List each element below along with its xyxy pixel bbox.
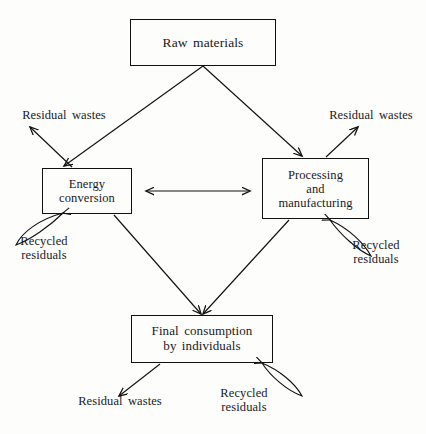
label-residual-wastes-right: Residual wastes (316, 108, 426, 122)
node-final-consumption-label: Final consumption by individuals (152, 324, 253, 353)
label-recycled-residuals-bottom: Recycled residuals (204, 386, 284, 415)
label-residual-wastes-left: Residual wastes (8, 108, 120, 122)
edge-energy-to-residual-wastes (30, 127, 72, 167)
edge-processing-to-final (203, 220, 289, 314)
materials-flow-diagram: Raw materials Energy conversion Processi… (0, 0, 426, 434)
edge-processing-to-residual-wastes (326, 127, 358, 157)
edge-energy-to-final (114, 215, 201, 314)
label-recycled-residuals-right: Recycled residuals (336, 238, 416, 267)
node-raw-materials: Raw materials (130, 19, 276, 66)
node-energy-conversion: Energy conversion (42, 168, 132, 214)
node-processing-and-manufacturing-label: Processing and manufacturing (278, 168, 352, 210)
node-raw-materials-label: Raw materials (163, 35, 244, 50)
node-processing-and-manufacturing: Processing and manufacturing (262, 158, 369, 219)
node-final-consumption: Final consumption by individuals (131, 315, 273, 363)
edge-final-to-residual-wastes (119, 364, 160, 396)
node-energy-conversion-label: Energy conversion (59, 177, 115, 205)
edge-raw-to-processing (203, 66, 302, 156)
label-residual-wastes-bottom: Residual wastes (64, 394, 176, 408)
label-recycled-residuals-left: Recycled residuals (5, 234, 83, 263)
